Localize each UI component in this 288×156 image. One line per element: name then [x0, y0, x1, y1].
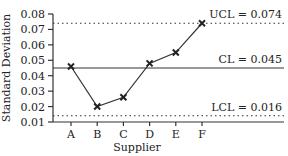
y-tick-label: 0.03 — [21, 85, 46, 98]
x-tick-label: F — [198, 128, 206, 141]
y-tick-label: 0.07 — [21, 23, 46, 36]
y-tick-label: 0.04 — [21, 70, 46, 83]
x-marker-icon — [147, 60, 153, 66]
control-chart: 0.080.070.060.050.040.030.020.01 ABCDEF … — [0, 0, 288, 156]
y-tick-label: 0.08 — [21, 8, 46, 21]
x-axis-title: Supplier — [113, 141, 161, 154]
cl-label: CL = 0.045 — [219, 53, 282, 66]
y-tick-label: 0.02 — [21, 101, 46, 114]
lcl-label: LCL = 0.016 — [211, 101, 282, 114]
y-tick-label: 0.06 — [21, 39, 46, 52]
control-limit-lines: UCL = 0.074CL = 0.045LCL = 0.016 — [53, 8, 284, 115]
series-line — [71, 23, 202, 106]
x-tick-label: A — [66, 128, 76, 141]
data-series — [68, 20, 205, 109]
x-marker-icon — [173, 50, 179, 56]
x-tick-label: D — [145, 128, 154, 141]
x-tick-label: C — [119, 128, 127, 141]
x-tick-label: B — [93, 128, 101, 141]
x-marker-icon — [120, 94, 126, 100]
x-marker-icon — [94, 104, 100, 110]
x-marker-icon — [199, 20, 205, 26]
y-axis: 0.080.070.060.050.040.030.020.01 — [21, 8, 54, 129]
y-tick-label: 0.05 — [21, 54, 46, 67]
ucl-label: UCL = 0.074 — [209, 8, 282, 21]
y-tick-label: 0.01 — [21, 116, 46, 129]
x-tick-label: E — [172, 128, 180, 141]
x-axis: ABCDEF — [53, 122, 284, 141]
y-axis-title: Standard Deviation — [0, 14, 13, 122]
